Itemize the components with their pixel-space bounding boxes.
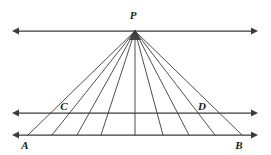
point-label-d: D <box>197 100 206 112</box>
arrowhead-right <box>251 132 258 139</box>
ray-7-from-p <box>135 31 189 135</box>
point-label-p: P <box>130 9 137 21</box>
arrowhead-left <box>12 110 19 117</box>
geometry-diagram-canvas: PCDAB <box>0 0 271 155</box>
point-labels-group: PCDAB <box>20 9 242 151</box>
point-label-b: B <box>234 139 242 151</box>
ray-fan-group <box>28 31 242 135</box>
point-label-c: C <box>60 100 68 112</box>
ray-8-from-p <box>135 31 215 135</box>
arrowhead-right <box>251 28 258 35</box>
arrowhead-right <box>251 110 258 117</box>
ray-9-from-p <box>135 31 242 135</box>
arrowhead-left <box>12 28 19 35</box>
ray-1-from-p <box>28 31 135 135</box>
geometry-figure: PCDAB <box>0 0 271 155</box>
ray-6-from-p <box>135 31 163 135</box>
arrowhead-left <box>12 132 19 139</box>
point-label-a: A <box>20 139 28 151</box>
ray-2-from-p <box>52 31 135 135</box>
